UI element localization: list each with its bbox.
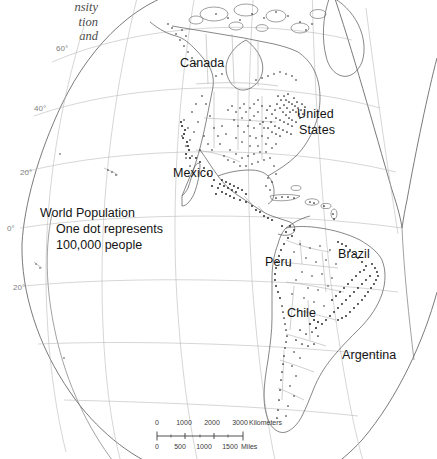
caribbean-islands — [270, 186, 337, 219]
country-label-peru: Peru — [265, 255, 292, 269]
graticule-label-20n: 20° — [20, 168, 32, 177]
scalebar-km-tick-3: 3000 — [232, 419, 248, 426]
arctic-islands — [189, 4, 326, 33]
scalebar-km-unit: Kilometers — [249, 419, 282, 426]
country-label-chile: Chile — [287, 306, 316, 320]
map-page: nsitytionand — [0, 0, 437, 459]
legend-line-3: 100,000 people — [40, 237, 163, 253]
legend-line-2: One dot represents — [40, 221, 163, 237]
scalebar-km-tick-1: 1000 — [176, 419, 192, 426]
country-label-argentina: Argentina — [342, 348, 396, 362]
country-label-brazil: Brazil — [338, 247, 370, 261]
scale-bar: 0 1000 2000 3000 Kilometers 0 500 1000 1… — [155, 419, 280, 453]
scalebar-mi-unit: Miles — [241, 443, 257, 450]
country-label-united-states-line1: United — [297, 107, 334, 121]
scalebar-mi-tick-1: 500 — [174, 443, 186, 450]
scalebar-mi-tick-0: 0 — [155, 443, 159, 450]
country-label-united-states-line2: States — [299, 123, 335, 137]
dot-cluster-us-south — [223, 143, 277, 191]
graticule-label-20s: 20° — [13, 283, 25, 292]
scalebar-km-tick-0: 0 — [155, 419, 159, 426]
graticule-label-40n: 40° — [34, 104, 46, 113]
legend-title: World Population — [40, 206, 135, 220]
country-label-canada: Canada — [180, 56, 224, 70]
country-label-mexico: Mexico — [173, 166, 213, 180]
scalebar-mi-tick-3: 1500 — [222, 443, 238, 450]
dot-cluster-argentina — [285, 319, 319, 417]
graticule-label-0: 0° — [7, 224, 15, 233]
dot-cluster-canada — [167, 11, 313, 81]
dot-cluster-caribbean — [275, 196, 335, 220]
scalebar-mi-tick-2: 1000 — [196, 443, 212, 450]
map-legend: World PopulationOne dot represents100,00… — [40, 205, 163, 253]
dot-cluster-us-midwest — [227, 99, 269, 147]
scalebar-ruler — [155, 430, 280, 442]
graticule-label-60n: 60° — [56, 44, 68, 53]
scalebar-km-tick-2: 2000 — [204, 419, 220, 426]
